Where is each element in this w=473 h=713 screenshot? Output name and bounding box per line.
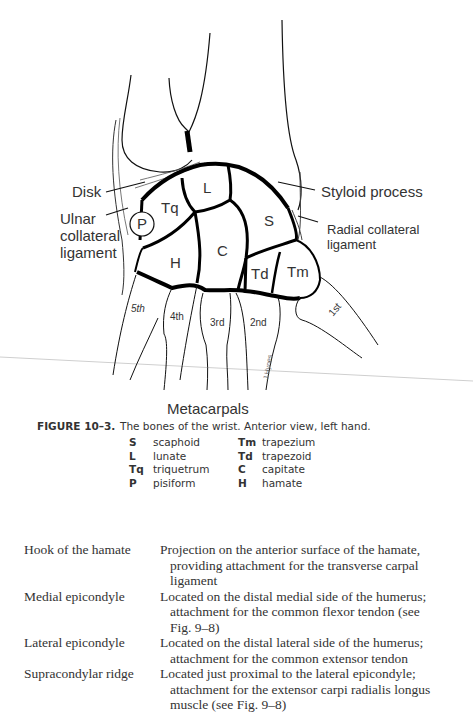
legend-row: Ppisiform Hhamate [129,477,347,491]
definition-term: Medial epicondyle [24,589,160,636]
label-disk: Disk [72,183,101,200]
bone-pisiform: P [137,215,147,232]
label-radial-collateral-ligament: Radial collateral ligament [327,222,420,252]
definition-text: Located on the distal medial side of the… [160,589,460,636]
wrist-figure: J.Hynes Disk Ulnar collateral ligament S… [0,0,473,400]
label-ulnar-collateral-ligament: Ulnar collateral ligament [60,210,120,261]
metacarpals-title: Metacarpals [167,400,249,417]
definition-supracondylar-ridge: Supracondylar ridge Located just proxima… [24,666,460,713]
legend-row: Sscaphoid Tmtrapezium [129,436,347,450]
definition-hook-of-hamate: Hook of the hamate Projection on the ant… [24,542,460,589]
definition-text: Located on the distal lateral side of th… [160,635,460,666]
definition-text: Located just proximal to the lateral epi… [160,666,460,713]
figure-caption: FIGURE 10–3.The bones of the wrist. Ante… [37,420,371,432]
definition-lateral-epicondyle: Lateral epicondyle Located on the distal… [24,635,460,666]
bone-trapezium: Tm [287,263,309,280]
bone-hamate: H [170,254,181,271]
definition-medial-epicondyle: Medial epicondyle Located on the distal … [24,589,460,636]
metacarpal-5th: 5th [131,303,145,314]
label-styloid-process: Styloid process [321,183,423,200]
bone-triquetrum: Tq [161,199,179,216]
definitions-list: Hook of the hamate Projection on the ant… [24,542,460,713]
bone-lunate: L [203,179,211,196]
bone-trapezoid: Td [251,265,269,282]
legend-row: Tqtriquetrum Ccapitate [129,463,347,477]
definition-text: Projection on the anterior surface of th… [160,542,460,589]
metacarpal-2nd: 2nd [250,317,267,328]
figure-number: FIGURE 10–3. [37,420,120,432]
bone-legend: Sscaphoid Tmtrapezium Llunate Tdtrapezoi… [129,436,347,490]
svg-text:J.Hynes: J.Hynes [262,354,274,381]
legend-row: Llunate Tdtrapezoid [129,450,347,464]
definition-term: Lateral epicondyle [24,635,160,666]
metacarpal-4th: 4th [170,311,184,322]
wrist-bones-illustration: J.Hynes [0,0,473,400]
bone-capitate: C [217,242,228,259]
bone-scaphoid: S [264,212,274,229]
caption-text: The bones of the wrist. Anterior view, l… [120,420,371,432]
metacarpal-3rd: 3rd [210,317,224,328]
definition-term: Supracondylar ridge [24,666,160,713]
definition-term: Hook of the hamate [24,542,160,589]
